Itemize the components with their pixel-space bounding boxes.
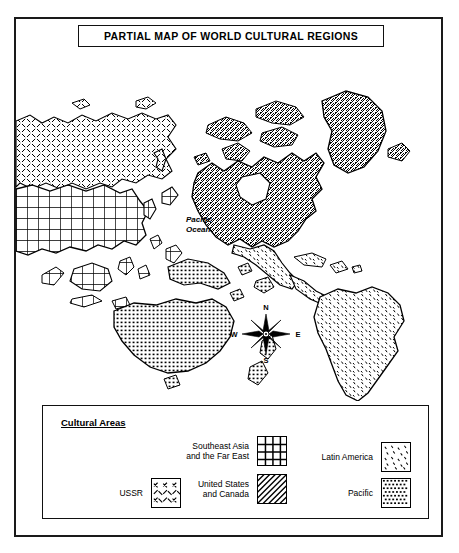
region-far-east-japan <box>162 187 178 205</box>
legend-label-latin-america: Latin America <box>295 452 373 463</box>
legend-label-united-states-canada: United States and Canada <box>163 479 249 500</box>
region-caribbean-pr <box>352 265 362 273</box>
legend-swatch-pacific <box>381 478 411 508</box>
region-pacific-new-zealand-s <box>248 361 268 385</box>
stipple-pattern-icon <box>382 443 410 471</box>
compass-east-label: E <box>295 330 300 339</box>
region-pacific-island-fiji <box>254 277 274 293</box>
legend-heading: Cultural Areas <box>61 417 126 428</box>
region-alaska-island <box>194 153 210 165</box>
ocean-label-line1: Pacific <box>186 215 212 225</box>
compass-west-label: W <box>230 330 238 339</box>
pacific-ocean-label: Pacific Ocean <box>186 215 212 235</box>
legend-label-line1: Southeast Asia <box>163 441 249 452</box>
legend-label-line1: United States <box>163 479 249 490</box>
island-sulawesi <box>118 257 134 275</box>
island-java <box>70 295 102 307</box>
legend-label-ussr: USSR <box>99 488 143 499</box>
region-pacific-island-solomon <box>238 263 252 275</box>
region-ussr <box>16 113 176 189</box>
compass-south-label: S <box>263 356 268 364</box>
legend-label-line1: Pacific <box>295 488 373 499</box>
ocean-label-line2: Ocean <box>186 225 212 235</box>
map-frame: PARTIAL MAP OF WORLD CULTURAL REGIONS <box>14 17 443 537</box>
legend: Cultural Areas Southeast Asia and the Fa… <box>42 405 429 519</box>
grid-pattern-icon <box>258 437 286 465</box>
compass-rose-svg: N S E W <box>228 302 304 364</box>
legend-item-united-states-canada: United States and Canada <box>163 474 287 504</box>
legend-item-pacific: Pacific <box>295 478 411 508</box>
region-far-east-taiwan <box>150 235 162 249</box>
region-far-east-sumatra <box>42 267 64 285</box>
compass-rose: N S E W <box>228 302 304 364</box>
island-moluccas <box>138 265 150 279</box>
region-caribbean-cuba <box>294 253 326 267</box>
compass-north-label: N <box>263 303 268 312</box>
region-ussr-island-small <box>72 99 90 109</box>
diagonal-hatch-pattern-icon <box>258 475 286 503</box>
region-canada-arctic-3 <box>260 127 298 147</box>
legend-label-southeast-asia-far-east: Southeast Asia and the Far East <box>163 441 249 462</box>
legend-label-line2: and Canada <box>163 489 249 500</box>
region-ussr-islands <box>136 97 156 109</box>
region-caribbean-hispaniola <box>330 261 348 273</box>
region-far-east <box>16 185 148 255</box>
region-pacific-tasmania <box>164 375 180 389</box>
region-pacific-new-guinea <box>168 259 230 289</box>
legend-label-line1: USSR <box>99 488 143 499</box>
region-greenland <box>322 91 386 173</box>
region-canada-arctic-4 <box>222 143 250 161</box>
legend-item-latin-america: Latin America <box>295 442 411 472</box>
region-canada-arctic-1 <box>206 117 252 141</box>
region-pacific-island-nc <box>230 289 244 301</box>
region-pacific-australia <box>114 299 234 373</box>
legend-item-southeast-asia-far-east: Southeast Asia and the Far East <box>163 436 287 466</box>
page-title: PARTIAL MAP OF WORLD CULTURAL REGIONS <box>104 30 358 42</box>
legend-label-line2: and the Far East <box>163 451 249 462</box>
region-far-east-korea <box>144 199 156 219</box>
region-far-east-philippines <box>166 245 182 263</box>
map-title-box: PARTIAL MAP OF WORLD CULTURAL REGIONS <box>78 25 384 47</box>
legend-label-pacific: Pacific <box>295 488 373 499</box>
legend-swatch-latin-america <box>381 442 411 472</box>
dense-dot-pattern-icon <box>382 479 410 507</box>
region-canada-arctic-2 <box>256 101 304 125</box>
legend-swatch-united-states-canada <box>257 474 287 504</box>
legend-swatch-southeast-asia-far-east <box>257 436 287 466</box>
region-latin-america-south <box>314 287 404 401</box>
region-iceland <box>388 143 410 161</box>
region-far-east-borneo <box>70 263 112 291</box>
legend-label-line1: Latin America <box>295 452 373 463</box>
